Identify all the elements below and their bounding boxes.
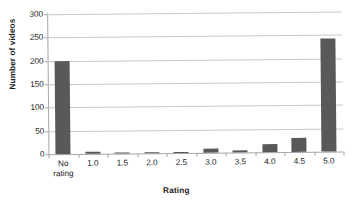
x-axis-tickmark — [255, 152, 256, 156]
x-axis-tickmark — [107, 154, 108, 158]
y-axis-tick-label: 100 — [18, 103, 44, 112]
x-axis-tickmark — [343, 151, 344, 155]
x-axis-tick-label: 2.0 — [137, 158, 167, 168]
x-axis-title: Rating — [1, 184, 351, 196]
x-axis-tickmark — [48, 154, 49, 158]
x-axis-tick-label: 3.5 — [226, 157, 256, 167]
x-axis-tick-label: 1.0 — [78, 159, 108, 169]
x-axis-tickmark — [137, 153, 138, 157]
bar — [292, 137, 307, 152]
x-axis-tickmark — [166, 153, 167, 157]
bar — [55, 61, 71, 154]
y-axis-tick-label: 50 — [18, 126, 44, 135]
x-axis-tickmark — [314, 152, 315, 156]
y-axis-tick-label: 0 — [18, 150, 44, 159]
x-axis-tick-label: 1.5 — [108, 158, 138, 168]
bar — [320, 38, 336, 152]
x-axis-tick-label: 4.0 — [255, 157, 285, 167]
x-axis-tick-labels: No rating1.01.52.02.53.03.54.04.55.0 — [49, 156, 344, 185]
y-axis-tick-labels: 050100150200250300 — [17, 9, 44, 159]
x-axis-tick-label: 3.0 — [196, 158, 226, 168]
y-axis-title: Number of videos — [7, 0, 17, 109]
x-axis-tickmark — [284, 152, 285, 156]
y-axis-tick-label: 250 — [17, 33, 43, 42]
bar — [262, 144, 277, 153]
plot-area — [47, 11, 343, 154]
x-axis-tick-label: 5.0 — [314, 156, 344, 166]
x-axis-tickmark — [196, 153, 197, 157]
y-axis-tick-label: 300 — [17, 10, 43, 19]
bar-series — [47, 11, 343, 154]
y-axis-tick-label: 150 — [18, 80, 44, 89]
x-axis-tick-label: 2.5 — [167, 158, 197, 168]
x-axis-tickmark — [225, 153, 226, 157]
y-axis-tick-label: 200 — [18, 56, 44, 65]
x-axis-tick-label: No rating — [49, 159, 79, 179]
bar-chart: Number of videos 050100150200250300 No r… — [0, 0, 351, 206]
x-axis-tick-label: 4.5 — [285, 157, 315, 167]
x-axis-tickmark — [78, 154, 79, 158]
